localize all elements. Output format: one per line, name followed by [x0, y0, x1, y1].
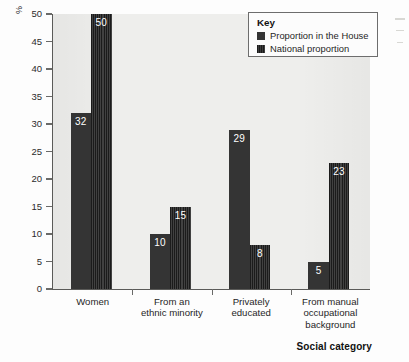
x-axis-separator: [291, 289, 292, 295]
y-axis-tick: [46, 96, 52, 97]
scan-artifact: [396, 30, 404, 31]
y-axis-tick-label: 25: [20, 147, 42, 157]
bar: 5: [308, 262, 329, 290]
bar: 29: [229, 130, 250, 290]
legend-entries: Proportion in the HouseNational proporti…: [257, 30, 377, 55]
bar-value-label: 15: [170, 210, 191, 221]
x-axis-category-label: Privatelyeducated: [212, 296, 291, 319]
y-axis-tick-label: 40: [20, 64, 42, 74]
y-axis-tick-label: 30: [20, 119, 42, 129]
legend-title: Key: [257, 17, 377, 29]
legend-label: National proportion: [270, 44, 349, 54]
bar-value-label: 50: [91, 17, 112, 28]
y-axis-tick: [46, 41, 52, 42]
scan-artifact: [397, 42, 403, 43]
bar-value-label: 23: [329, 166, 350, 177]
y-axis-tick: [46, 261, 52, 262]
y-axis-tick: [46, 151, 52, 152]
y-axis-tick: [46, 206, 52, 207]
bar-value-label: 5: [308, 265, 329, 276]
y-axis-tick: [46, 178, 52, 179]
x-axis-category-label: From manualoccupationalbackground: [291, 296, 370, 330]
y-axis-tick-label: 45: [20, 37, 42, 47]
y-axis-tick-label: 5: [20, 257, 42, 267]
bar-value-label: 29: [229, 133, 250, 144]
bar-value-label: 32: [71, 116, 92, 127]
bar-value-label: 10: [150, 237, 171, 248]
bar: 50: [91, 14, 112, 289]
y-axis-tick-label: 0: [20, 284, 42, 294]
y-axis-tick-label: 35: [20, 92, 42, 102]
y-axis-tick: [46, 288, 52, 289]
legend-label: Proportion in the House: [270, 31, 369, 41]
y-axis-tick: [46, 13, 52, 14]
legend-swatch: [257, 45, 265, 53]
bar-value-label: 8: [250, 248, 271, 259]
bar: 15: [170, 207, 191, 290]
y-axis-tick: [46, 123, 52, 124]
legend-box: Key Proportion in the HouseNational prop…: [248, 12, 378, 57]
bar: 10: [150, 234, 171, 289]
bar: 8: [250, 245, 271, 289]
legend-entry: Proportion in the House: [257, 30, 377, 43]
y-axis-tick: [46, 68, 52, 69]
scan-artifact: [395, 18, 405, 20]
x-axis-separator: [212, 289, 213, 295]
legend-swatch: [257, 32, 265, 40]
x-axis-category-label: Women: [53, 296, 132, 307]
x-axis-separator: [132, 289, 133, 295]
legend-entry: National proportion: [257, 43, 377, 56]
bar: 23: [329, 163, 350, 290]
y-axis-tick: [46, 233, 52, 234]
bar-chart: % 05101520253035404550 32501015298523 Wo…: [0, 0, 409, 362]
y-axis-tick-label: 20: [20, 174, 42, 184]
y-axis-tick-label: 50: [20, 9, 42, 19]
y-axis-tick-label: 15: [20, 202, 42, 212]
y-axis-tick-label: 10: [20, 229, 42, 239]
x-axis-title: Social category: [297, 341, 372, 352]
x-axis-category-label: From anethnic minority: [132, 296, 211, 319]
bar: 32: [71, 113, 92, 289]
